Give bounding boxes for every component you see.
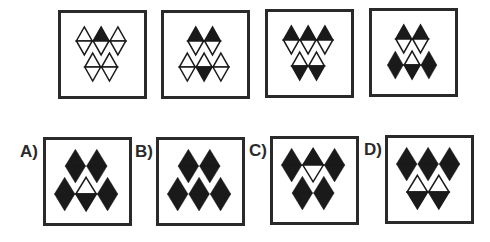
- sequence-box-1: [58, 10, 147, 99]
- sequence-box-4: [369, 8, 458, 97]
- option-a[interactable]: [43, 137, 132, 226]
- option-c[interactable]: [270, 136, 359, 225]
- option-b[interactable]: [156, 137, 245, 226]
- sequence-box-2: [161, 10, 250, 99]
- diamond-pattern-icon: [61, 13, 144, 96]
- option-d[interactable]: [385, 135, 474, 224]
- diamond-pattern-icon: [159, 140, 242, 223]
- diamond-pattern-icon: [388, 138, 471, 221]
- option-label-b: B): [135, 142, 153, 162]
- option-label-c: C): [249, 141, 267, 161]
- diamond-pattern-icon: [268, 12, 351, 95]
- sequence-box-3: [265, 9, 354, 98]
- diamond-pattern-icon: [46, 140, 129, 223]
- diamond-pattern-icon: [372, 11, 455, 94]
- diamond-pattern-icon: [273, 139, 356, 222]
- diamond-pattern-icon: [164, 13, 247, 96]
- option-label-d: D): [364, 140, 382, 160]
- option-label-a: A): [20, 142, 38, 162]
